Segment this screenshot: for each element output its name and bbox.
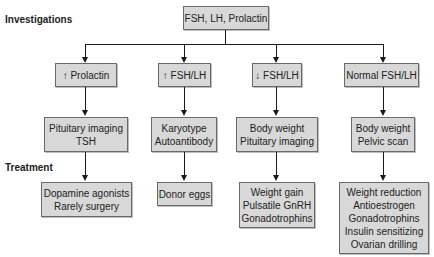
treatment-text: Gonadotrophins <box>241 212 312 225</box>
arrow-down-icon <box>181 175 187 181</box>
investigation-box-fsh-lh-high: Karyotype Autoantibody <box>151 117 217 152</box>
treatment-text: Gonadotrophins <box>348 212 419 225</box>
condition-box-prolactin-high: ↑ Prolactin <box>55 63 117 87</box>
treatment-text: Rarely surgery <box>54 200 119 213</box>
connector-line <box>184 87 185 111</box>
investigation-text: Karyotype <box>161 122 206 135</box>
investigation-box-fsh-lh-normal: Body weight Pelvic scan <box>351 117 415 152</box>
treatment-text: Ovarian drilling <box>351 238 418 251</box>
arrow-down-icon <box>82 175 88 181</box>
connector-line <box>276 44 277 58</box>
investigations-label: Investigations <box>5 14 72 25</box>
treatment-text: Weight reduction <box>347 186 422 199</box>
root-text: FSH, LH, Prolactin <box>185 12 268 25</box>
treatment-text: Pulsatile GnRH <box>243 199 311 212</box>
condition-text: ↓ FSH/LH <box>255 69 298 82</box>
connector-line <box>184 44 185 58</box>
treatment-box-fsh-lh-high: Donor eggs <box>157 182 212 206</box>
condition-box-fsh-lh-high: ↑ FSH/LH <box>158 63 211 87</box>
treatment-text: Weight gain <box>251 186 304 199</box>
branch-bar <box>85 44 384 45</box>
treatment-box-prolactin: Dopamine agonists Rarely surgery <box>41 182 132 217</box>
investigation-box-fsh-lh-low: Body weight Pituitary imaging <box>236 117 318 152</box>
treatment-text: Dopamine agonists <box>44 187 130 200</box>
arrow-down-icon <box>380 110 386 116</box>
condition-text: ↑ Prolactin <box>63 69 110 82</box>
arrow-down-icon <box>273 175 279 181</box>
investigation-box-prolactin: Pituitary imaging TSH <box>44 117 128 152</box>
investigation-text: Body weight <box>250 122 304 135</box>
arrow-down-icon <box>181 110 187 116</box>
investigation-text: Pituitary imaging <box>49 122 123 135</box>
connector-line <box>184 152 185 176</box>
connector-line <box>383 152 384 176</box>
connector-line <box>276 152 277 176</box>
treatment-text: Donor eggs <box>159 188 211 201</box>
condition-text: ↑ FSH/LH <box>163 69 206 82</box>
arrow-down-icon <box>82 110 88 116</box>
treatment-box-fsh-lh-low: Weight gain Pulsatile GnRH Gonadotrophin… <box>239 182 315 228</box>
condition-text: Normal FSH/LH <box>346 69 417 82</box>
root-connector <box>225 30 226 45</box>
connector-line <box>85 44 86 58</box>
investigation-text: Autoantibody <box>155 135 213 148</box>
treatment-text: Insulin sensitizing <box>345 225 423 238</box>
condition-box-fsh-lh-low: ↓ FSH/LH <box>252 63 302 87</box>
condition-box-fsh-lh-normal: Normal FSH/LH <box>344 63 419 87</box>
connector-line <box>276 87 277 111</box>
arrow-down-icon <box>380 175 386 181</box>
treatment-text: Antioestrogen <box>353 199 415 212</box>
investigation-text: TSH <box>76 135 96 148</box>
treatment-label: Treatment <box>5 162 53 173</box>
connector-line <box>85 152 86 176</box>
investigation-text: Pituitary imaging <box>240 135 314 148</box>
connector-line <box>383 87 384 111</box>
root-box: FSH, LH, Prolactin <box>183 6 269 30</box>
treatment-box-fsh-lh-normal: Weight reduction Antioestrogen Gonadotro… <box>339 182 429 254</box>
arrow-down-icon <box>273 110 279 116</box>
investigation-text: Body weight <box>356 122 410 135</box>
connector-line <box>85 87 86 111</box>
connector-line <box>383 44 384 58</box>
investigation-text: Pelvic scan <box>358 135 409 148</box>
